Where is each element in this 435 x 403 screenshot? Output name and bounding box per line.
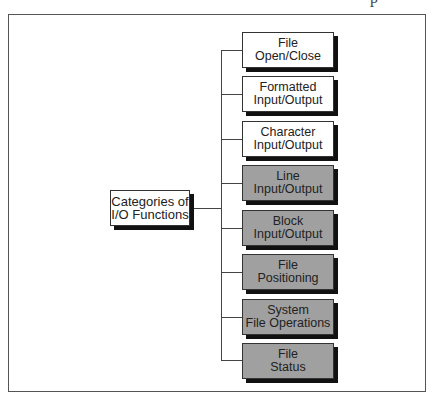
branch-line-5 xyxy=(221,228,242,229)
node-system-file-operations: System File Operations xyxy=(242,299,334,335)
branch-line-4 xyxy=(221,183,242,184)
branch-line-3 xyxy=(221,139,242,140)
branch-line-1 xyxy=(221,50,242,51)
node-line-io: Line Input/Output xyxy=(242,165,334,201)
node-file-open-close: File Open/Close xyxy=(242,32,334,68)
node-block-io: Block Input/Output xyxy=(242,210,334,246)
branch-line-7 xyxy=(221,317,242,318)
node-file-positioning: File Positioning xyxy=(242,254,334,290)
branch-line-2 xyxy=(221,94,242,95)
root-connector xyxy=(190,208,222,209)
node-label-line2: Input/Output xyxy=(254,94,323,107)
root-node-io-categories: Categories of I/O Functions xyxy=(110,190,190,226)
node-file-status: File Status xyxy=(242,343,334,379)
node-label-line2: Input/Output xyxy=(254,228,323,241)
root-label-line2: I/O Functions xyxy=(111,208,188,221)
node-label-line2: Open/Close xyxy=(255,50,321,63)
node-label-line2: Status xyxy=(270,361,305,374)
cropped-header-glyph: p xyxy=(370,0,382,5)
branch-line-6 xyxy=(221,272,242,273)
node-character-io: Character Input/Output xyxy=(242,121,334,157)
branch-line-8 xyxy=(221,360,242,361)
node-label-line2: Positioning xyxy=(257,272,318,285)
trunk-line xyxy=(221,50,222,360)
node-label-line2: Input/Output xyxy=(254,183,323,196)
figure-frame xyxy=(8,14,426,392)
node-formatted-io: Formatted Input/Output xyxy=(242,76,334,112)
node-label-line2: Input/Output xyxy=(254,139,323,152)
node-label-line2: File Operations xyxy=(246,317,331,330)
